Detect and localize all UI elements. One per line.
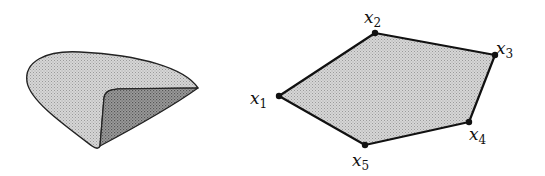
- label-x3: x3: [496, 38, 513, 61]
- convex-polygon: [279, 33, 495, 145]
- label-x5: x5: [352, 150, 369, 173]
- convex-hull: [276, 30, 498, 148]
- nonconvex-set-fold: [100, 88, 198, 146]
- diagram-canvas: x1 x2 x3 x4 x5: [0, 0, 545, 176]
- nonconvex-set: [27, 52, 198, 148]
- label-x4: x4: [469, 124, 487, 147]
- point-x2: [372, 30, 378, 36]
- point-x5: [362, 142, 368, 148]
- label-x1: x1: [250, 88, 267, 111]
- point-x1: [276, 93, 282, 99]
- label-x2: x2: [364, 7, 381, 30]
